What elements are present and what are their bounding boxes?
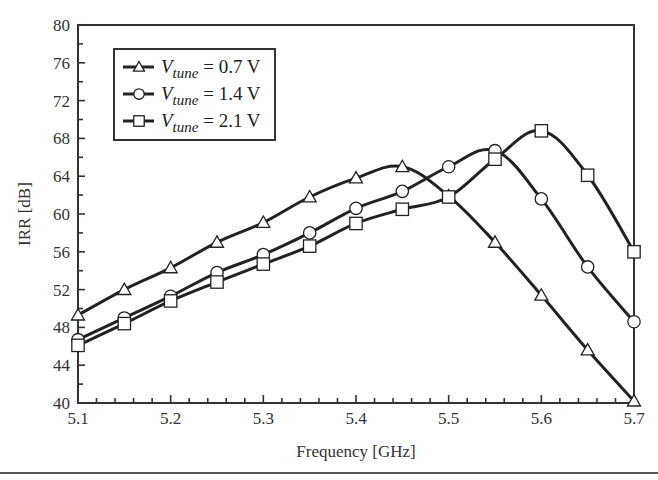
data-series xyxy=(72,125,641,406)
square-marker xyxy=(134,116,144,126)
circle-marker xyxy=(535,193,547,205)
circle-marker xyxy=(303,227,315,239)
x-axis-title: Frequency [GHz] xyxy=(296,442,415,461)
square-marker xyxy=(535,125,547,137)
circle-marker xyxy=(396,185,408,197)
circle-marker xyxy=(134,89,144,99)
square-marker xyxy=(489,153,501,165)
y-tick-label: 68 xyxy=(53,129,70,148)
square-marker xyxy=(628,246,640,258)
square-marker xyxy=(257,258,269,270)
legend: Vtune = 0.7 VVtune = 1.4 VVtune = 2.1 V xyxy=(114,49,275,140)
y-tick-label: 60 xyxy=(53,205,70,224)
square-marker xyxy=(581,169,593,181)
y-tick-label: 64 xyxy=(53,167,71,186)
series-triangle xyxy=(72,160,641,406)
circle-marker xyxy=(442,161,454,173)
circle-marker xyxy=(350,202,362,214)
square-marker xyxy=(118,317,130,329)
y-tick-label: 44 xyxy=(53,356,71,375)
x-tick-label: 5.1 xyxy=(67,409,88,428)
y-tick-label: 56 xyxy=(53,243,70,262)
square-marker xyxy=(72,339,84,351)
square-marker xyxy=(396,203,408,215)
triangle-marker xyxy=(72,309,85,320)
series-square xyxy=(72,125,640,352)
square-marker xyxy=(211,276,223,288)
irr-vs-frequency-chart: 40444852566064687276805.15.25.35.45.55.6… xyxy=(0,0,658,480)
x-tick-label: 5.2 xyxy=(160,409,181,428)
square-marker xyxy=(164,295,176,307)
y-tick-label: 48 xyxy=(53,318,70,337)
x-tick-label: 5.6 xyxy=(531,409,552,428)
x-tick-label: 5.7 xyxy=(623,409,645,428)
series-line xyxy=(78,131,634,346)
square-marker xyxy=(303,240,315,252)
x-tick-label: 5.5 xyxy=(438,409,459,428)
x-tick-label: 5.4 xyxy=(345,409,367,428)
y-tick-label: 76 xyxy=(53,54,70,73)
y-axis-title: IRR [dB] xyxy=(15,182,34,246)
x-tick-label: 5.3 xyxy=(253,409,274,428)
bottom-rule-divider xyxy=(0,472,658,474)
y-tick-label: 72 xyxy=(53,92,70,111)
series-line xyxy=(78,166,634,401)
square-marker xyxy=(350,217,362,229)
y-tick-label: 80 xyxy=(53,16,70,35)
y-tick-label: 52 xyxy=(53,281,70,300)
circle-marker xyxy=(581,261,593,273)
square-marker xyxy=(442,191,454,203)
circle-marker xyxy=(628,316,640,328)
